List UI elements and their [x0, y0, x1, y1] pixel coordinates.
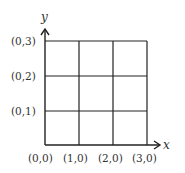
grid-lines — [45, 41, 147, 145]
x-axis-label: x — [163, 138, 170, 152]
x-tick-label-1: (1,0) — [63, 152, 88, 164]
y-tick-label-2: (0,2) — [11, 70, 36, 82]
y-axis-label: y — [40, 10, 48, 24]
y-tick-label-1: (0,1) — [11, 105, 36, 117]
x-tick-label-3: (3,0) — [132, 152, 157, 164]
y-tick-label-3: (0,3) — [11, 35, 36, 47]
coordinate-grid-diagram: x y (0,3) (0,2) (0,1) (0,0) (1,0) (2,0) … — [0, 0, 185, 173]
axes — [41, 29, 160, 149]
x-tick-label-2: (2,0) — [98, 152, 123, 164]
x-tick-label-0: (0,0) — [28, 152, 53, 164]
